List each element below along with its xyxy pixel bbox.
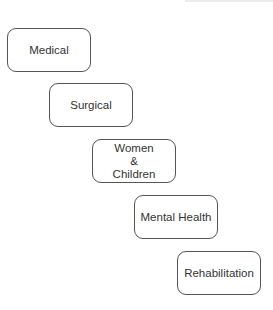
node-surgical-label: Surgical bbox=[70, 99, 112, 112]
node-rehabilitation: Rehabilitation bbox=[177, 251, 261, 295]
node-surgical: Surgical bbox=[49, 83, 133, 127]
node-mental-health-label: Mental Health bbox=[141, 211, 212, 224]
top-edge-artifact bbox=[185, 0, 273, 2]
node-women-children-label: Women & Children bbox=[113, 142, 156, 181]
node-rehabilitation-label: Rehabilitation bbox=[184, 267, 254, 280]
node-medical: Medical bbox=[7, 28, 91, 72]
node-women-children: Women & Children bbox=[92, 139, 176, 183]
node-medical-label: Medical bbox=[29, 44, 69, 57]
node-mental-health: Mental Health bbox=[134, 195, 218, 239]
